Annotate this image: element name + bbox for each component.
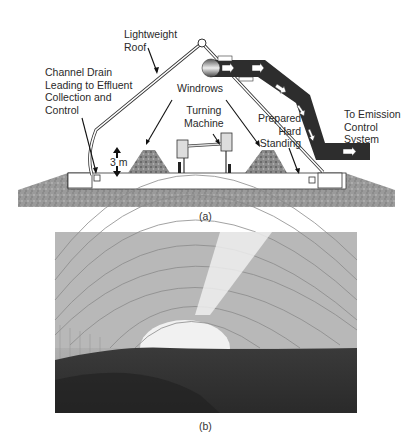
label-3m: 3 m [110,156,128,169]
windrow-right [245,150,287,173]
right-drain [309,177,315,183]
label-emission-control: To Emission Control System [344,108,401,146]
caption-a: (a) [199,210,212,222]
ground [18,173,395,207]
label-prepared-hard-standing: Prepared Hard Standing [258,112,301,150]
left-drain [94,175,100,181]
label-channel-drain: Channel Drain Leading to Effluent Collec… [45,66,132,116]
roof-apex [198,39,206,47]
label-lightweight-roof: Lightweight Roof [124,28,177,53]
label-turning-machine: Turning Machine [184,104,224,129]
caption-b: (b) [199,420,212,432]
turning-machine [177,133,232,173]
windrow-left [128,150,170,173]
right-footing [318,173,342,188]
label-windrows: Windrows [177,82,223,95]
left-footing [68,173,92,188]
